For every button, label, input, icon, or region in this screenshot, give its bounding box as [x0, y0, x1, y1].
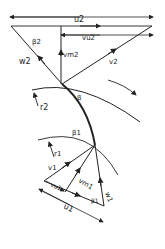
- label-r2: r2: [40, 103, 48, 112]
- label-w2: w2: [19, 57, 31, 66]
- label-vu1: vu1: [50, 181, 63, 192]
- label-u2: u2: [74, 15, 84, 24]
- r2-arrow: [34, 93, 38, 106]
- label-beta1-top: β1: [72, 129, 81, 137]
- label-v2: v2: [109, 58, 118, 66]
- u1-arrow: [72, 193, 80, 196]
- velocity-triangle-diagram: u2 vu2 β2 vm2 w2 v2 r2 β β1 r1 v1: [0, 0, 165, 249]
- outlet-triangle: u2 vu2 β2 vm2 w2 v2: [10, 15, 153, 84]
- label-beta1: β1: [91, 197, 99, 205]
- rotation-direction-arrow: [108, 80, 136, 95]
- label-u1: u1: [62, 202, 75, 214]
- v2-arrow: [108, 49, 116, 54]
- label-beta2: β2: [32, 38, 41, 46]
- w2-arrow: [38, 56, 45, 64]
- v1-arrow: [62, 162, 70, 168]
- label-r1: r1: [54, 150, 61, 158]
- label-beta-blade: β: [77, 94, 81, 102]
- vm1-arrow: [75, 168, 80, 176]
- label-w1: w1: [103, 191, 114, 203]
- w2-vector: [11, 26, 62, 84]
- label-vm2: vm2: [63, 51, 78, 59]
- label-vm1: vm1: [77, 177, 94, 192]
- w1-arrow: [100, 178, 101, 186]
- label-v1: v1: [48, 164, 57, 172]
- label-vu2: vu2: [82, 34, 95, 42]
- inlet-triangle: v1 vu1 vm1 u1 β1 w1: [39, 145, 114, 222]
